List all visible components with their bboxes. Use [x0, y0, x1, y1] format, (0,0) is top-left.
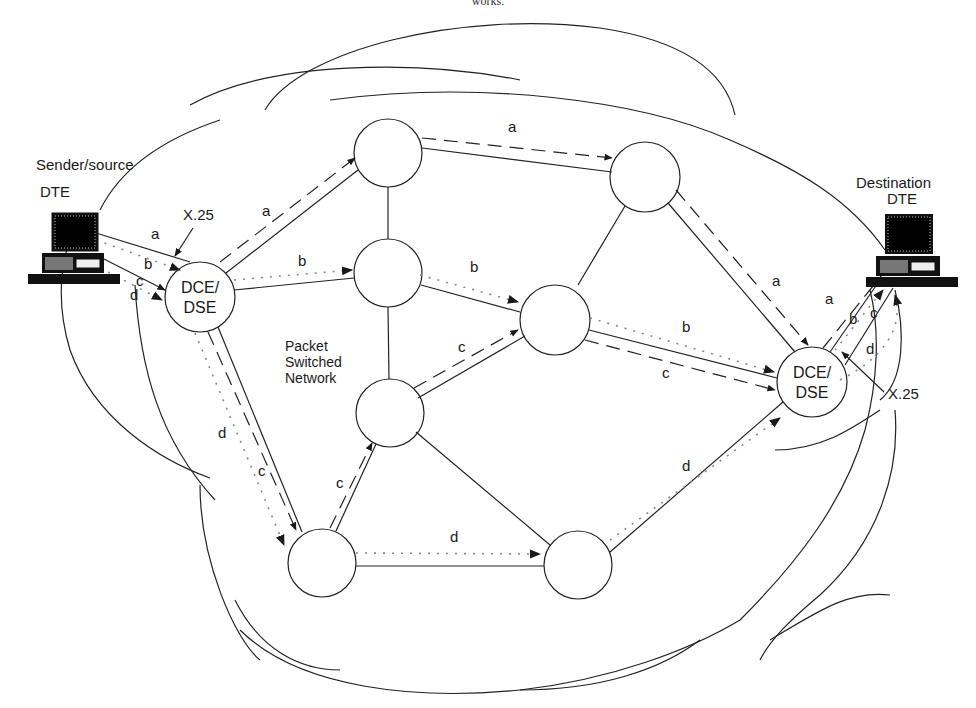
node-3 [356, 379, 424, 447]
node-5 [520, 285, 590, 355]
node-1 [354, 119, 422, 187]
packet-switched-network-diagram [0, 0, 976, 708]
sender-computer-icon [28, 213, 120, 284]
node-2 [354, 239, 422, 307]
dashed-packet-paths [208, 138, 890, 530]
packet-c-dce-n6: c [258, 462, 266, 479]
node-4 [610, 142, 680, 212]
packet-d-sender: d [130, 286, 138, 303]
node-6 [288, 529, 356, 597]
sender-label-line2: DTE [40, 183, 70, 200]
sender-label-line1: Sender/source [36, 156, 134, 173]
x25-left-label: X.25 [183, 206, 214, 223]
packet-d-dest: d [866, 340, 874, 357]
packet-c-n3-n5: c [458, 338, 466, 355]
packet-d-n6-n7: d [450, 528, 458, 545]
dce-right-label: DCE/ DSE [777, 363, 847, 403]
node-7 [544, 531, 612, 599]
packet-b-dest: b [849, 310, 857, 327]
destination-computer-icon [866, 214, 958, 287]
x25-right-pointer [842, 352, 884, 392]
packet-a-dest: a [825, 290, 833, 307]
packet-b-sender: b [144, 255, 152, 272]
packet-b-dce-n2: b [298, 252, 306, 269]
destination-label-line2: DTE [887, 190, 917, 207]
solid-links [96, 148, 901, 566]
dce-left-label: DCE/ DSE [165, 278, 235, 318]
packet-b-n5-dce: b [682, 318, 690, 335]
network-cloud-outline [61, 24, 895, 694]
packet-c-dest: c [870, 304, 878, 321]
packet-a-dce-n1: a [262, 202, 270, 219]
packet-d-n7-dce: d [682, 457, 690, 474]
packet-a-n1-n4: a [508, 118, 516, 135]
packet-b-n2-n5: b [470, 258, 478, 275]
x25-right-label: X.25 [888, 385, 919, 402]
network-label: Packet Switched Network [285, 338, 342, 386]
packet-c-n6-n3: c [336, 474, 344, 491]
x25-left-pointer [175, 228, 193, 256]
packet-a-n4-dce: a [772, 272, 780, 289]
packet-a-sender: a [151, 225, 159, 242]
packet-c-n5-dce: c [662, 364, 670, 381]
packet-d-dce-n6: d [218, 424, 226, 441]
destination-label-line1: Destination [856, 174, 931, 191]
